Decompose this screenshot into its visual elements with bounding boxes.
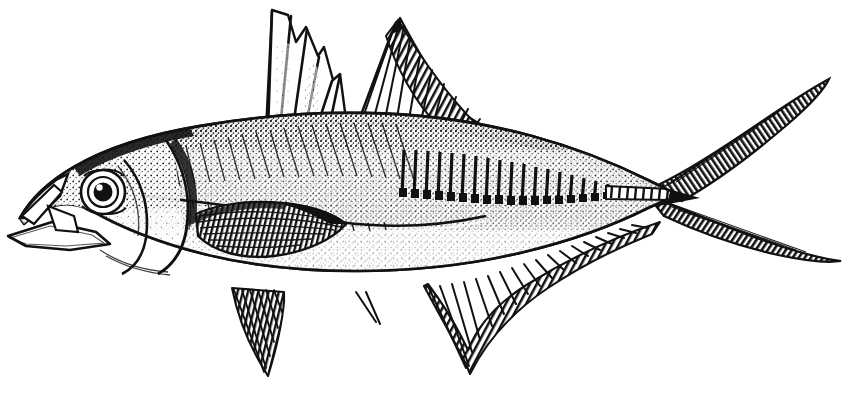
eye-pupil — [94, 183, 113, 202]
eye-highlight — [96, 184, 102, 190]
eye — [81, 170, 126, 215]
fish-illustration — [0, 0, 850, 395]
illustration-canvas — [0, 0, 850, 395]
